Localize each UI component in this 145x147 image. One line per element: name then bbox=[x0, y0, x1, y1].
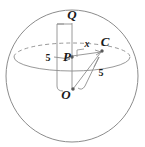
label-point-q: Q bbox=[67, 7, 77, 22]
label-radius-right: 5 bbox=[99, 67, 104, 78]
label-point-o: O bbox=[61, 87, 71, 102]
label-segment-x: x bbox=[84, 38, 90, 49]
diagram-canvas: Q C P O x 5 5 bbox=[0, 0, 145, 147]
right-angle-mark bbox=[77, 49, 84, 57]
point-o-dot bbox=[71, 87, 74, 90]
segment-pc bbox=[72, 52, 101, 56]
point-c-dot bbox=[100, 49, 103, 52]
label-point-c: C bbox=[101, 34, 110, 49]
segment-oc bbox=[73, 52, 101, 89]
label-radius-left: 5 bbox=[46, 52, 51, 63]
oc-dimension-bracket bbox=[78, 57, 99, 89]
label-point-p: P bbox=[63, 49, 72, 64]
sphere-geometry-figure: Q C P O x 5 5 bbox=[0, 0, 145, 147]
